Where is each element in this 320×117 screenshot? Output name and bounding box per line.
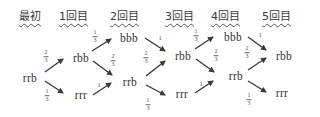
state-node-s3_rrr: rrr	[176, 88, 188, 100]
arrow-icon	[248, 81, 266, 92]
arrow-icon	[248, 58, 266, 70]
arrow-icon	[195, 81, 213, 93]
state-node-s0_rrb: rrb	[23, 72, 37, 84]
probability-label: 23	[214, 48, 219, 62]
probability-label: 13	[45, 88, 50, 102]
probability-label: 23	[111, 53, 116, 67]
probability-label: 13	[247, 92, 252, 106]
arrow-icon	[248, 37, 266, 50]
arrow-icon	[145, 38, 165, 51]
arrow-icon	[93, 83, 111, 95]
state-node-s1_rbb: rbb	[73, 52, 89, 64]
state-node-s2_bbb: bbb	[120, 32, 138, 44]
probability-label: 13	[146, 97, 151, 111]
probability-label: 1	[258, 31, 261, 38]
probability-label: 23	[245, 45, 250, 59]
probability-label: 1	[199, 80, 202, 87]
state-node-s4_bbb: bbb	[224, 31, 242, 43]
arrow-icon	[146, 61, 165, 76]
state-node-s5_rbb: rbb	[276, 50, 292, 62]
state-node-s5_rrr: rrr	[276, 87, 288, 99]
state-node-s4_rrb: rrb	[229, 70, 243, 82]
state-node-s3_rbb: rbb	[175, 50, 191, 62]
arrow-icon	[196, 59, 214, 72]
probability-label: 1	[97, 81, 100, 88]
probability-label: 13	[194, 28, 199, 42]
probability-label: 13	[93, 29, 98, 43]
probability-label: 23	[144, 50, 149, 64]
probability-label: 23	[44, 49, 49, 63]
state-node-s1_rrr: rrr	[75, 89, 87, 101]
probability-label: 1	[158, 34, 161, 41]
state-node-s2_rrb: rrb	[123, 76, 137, 88]
arrow-icon	[93, 61, 112, 75]
arrow-icon	[146, 85, 165, 95]
